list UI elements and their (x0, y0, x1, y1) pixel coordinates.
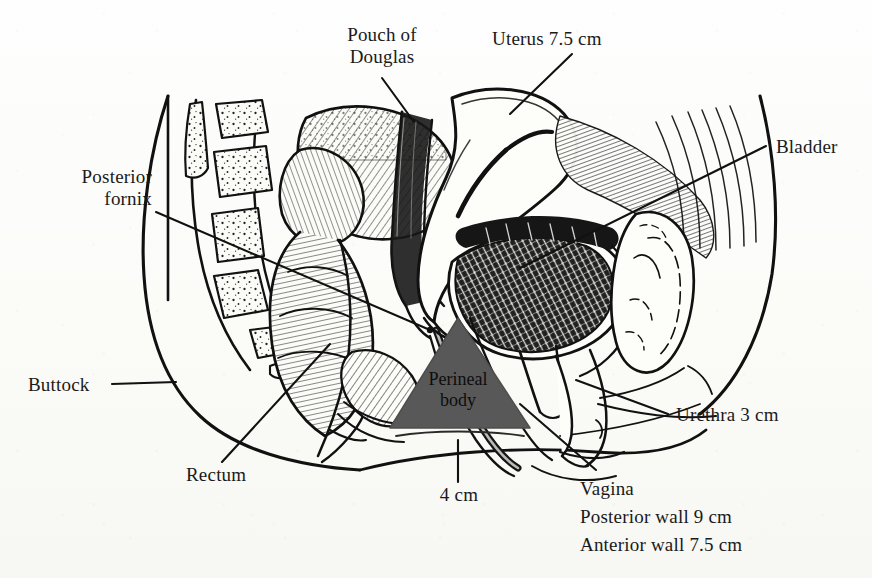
anatomy-figure: Pouch of Douglas Uterus 7.5 cm Bladder P… (0, 0, 872, 578)
label-vagina-anterior-wall: Anterior wall 7.5 cm (580, 534, 742, 556)
label-perineal-body: Perineal body (396, 369, 520, 411)
label-posterior-fornix: Posterior fornix (6, 166, 152, 210)
leader-buttock (112, 382, 176, 384)
label-buttock: Buttock (28, 374, 90, 396)
leader-vagina (520, 404, 596, 470)
label-uterus: Uterus 7.5 cm (492, 28, 602, 50)
label-bladder: Bladder (776, 136, 838, 158)
pubic-symphysis (611, 212, 693, 372)
label-pouch-of-douglas: Pouch of Douglas (318, 24, 446, 68)
label-perineal-measure: 4 cm (408, 484, 510, 506)
urethra (556, 350, 606, 467)
label-rectum: Rectum (186, 464, 246, 486)
label-urethra: Urethra 3 cm (676, 404, 779, 426)
label-vagina: Vagina (580, 478, 634, 500)
label-vagina-posterior-wall: Posterior wall 9 cm (580, 506, 732, 528)
